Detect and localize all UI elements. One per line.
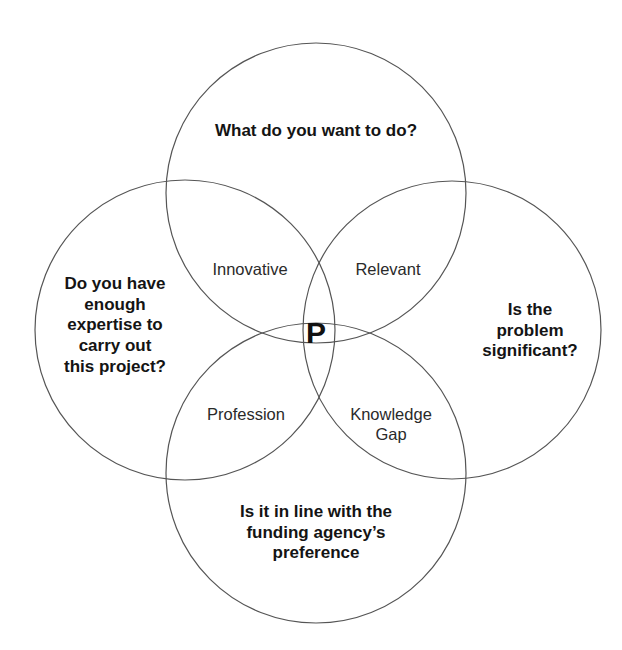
right-circle-question: Is the problem significant? xyxy=(460,300,600,362)
left-circle-question: Do you have enough expertise to carry ou… xyxy=(40,274,190,378)
intersection-innovative: Innovative xyxy=(190,259,310,279)
intersection-profession: Profession xyxy=(186,404,306,424)
circle-bottom xyxy=(166,323,466,623)
center-p-label: P xyxy=(296,315,336,352)
circle-top xyxy=(166,43,466,343)
intersection-knowledge-gap: Knowledge Gap xyxy=(336,404,446,444)
intersection-relevant: Relevant xyxy=(338,259,438,279)
bottom-circle-question: Is it in line with the funding agency’s … xyxy=(206,502,426,564)
top-circle-question: What do you want to do? xyxy=(196,121,436,142)
